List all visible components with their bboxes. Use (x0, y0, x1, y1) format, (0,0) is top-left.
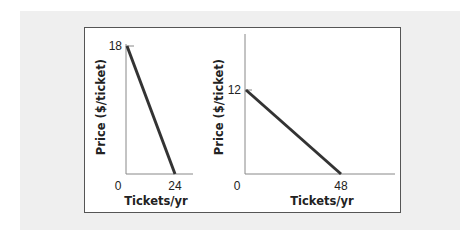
left-demand-line (127, 46, 175, 174)
left-origin-label: 0 (115, 179, 122, 193)
left-chart: 18 0 24 Tickets/yr Price ($/ticket) (94, 39, 193, 208)
right-y-axis-title: Price ($/ticket) (212, 59, 226, 155)
left-y-axis-title: Price ($/ticket) (94, 59, 108, 155)
right-origin-label: 0 (234, 179, 241, 193)
right-y-tick-label: 12 (228, 83, 242, 97)
right-demand-line (246, 90, 341, 174)
left-x-axis-title: Tickets/yr (124, 194, 188, 208)
right-x-axis-title: Tickets/yr (290, 194, 354, 208)
demand-charts: 18 0 24 Tickets/yr Price ($/ticket) 12 0… (0, 0, 460, 237)
left-x-tick-label: 24 (168, 179, 182, 193)
right-chart: 12 0 48 Tickets/yr Price ($/ticket) (212, 34, 395, 208)
left-y-tick-label: 18 (109, 39, 123, 53)
right-x-tick-label: 48 (334, 179, 348, 193)
